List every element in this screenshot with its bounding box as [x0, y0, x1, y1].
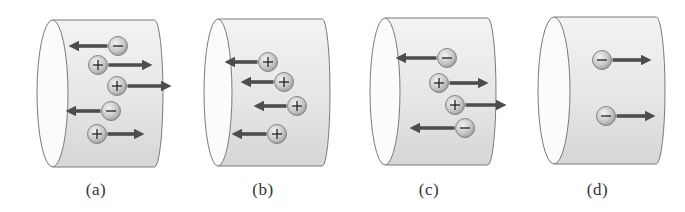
- panel-caption-d: (d): [568, 180, 628, 200]
- panel-caption-b: (b): [233, 180, 293, 200]
- cylinder-end-cap: [37, 20, 68, 167]
- panel-caption-c: (c): [399, 180, 459, 200]
- conductor-cylinder-body: [218, 19, 330, 166]
- cylinder-end-cap: [370, 18, 400, 165]
- panel-b: [204, 19, 330, 166]
- cylinder-end-cap: [204, 19, 232, 166]
- panel-a: [37, 20, 163, 167]
- panel-caption-a: (a): [66, 180, 126, 200]
- charge-flow-figure: (a)(b)(c)(d): [0, 0, 685, 212]
- cylinder-end-cap: [538, 17, 570, 164]
- panel-d: [538, 17, 665, 164]
- conductor-cylinder-body: [53, 20, 164, 167]
- conductor-cylinder-body: [554, 17, 665, 164]
- panel-c: [370, 18, 498, 165]
